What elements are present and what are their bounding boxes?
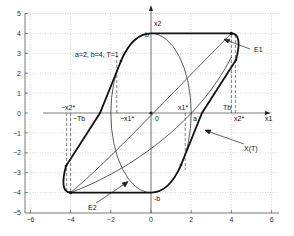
y-tick-labels: 5 4 3 2 1 0 −1 −2 −3 −4 −5 [13,10,21,216]
label-neg-b: -b [154,195,160,202]
x-tick: −2 [107,216,115,223]
x-tick: −4 [67,216,75,223]
y-tick: −5 [13,209,21,216]
label-xt: X(T) [244,145,258,153]
y-tick: −1 [13,130,21,137]
y-tick: 4 [17,30,21,37]
y-tick: −2 [13,149,21,156]
y-tick: 5 [17,10,21,17]
parameter-text: a=2, b=4, T=1 [75,51,119,58]
label-x2-star: x2* [234,115,244,122]
label-tb: Tb [223,104,231,111]
y-tick: −4 [13,189,21,196]
label-x1-star: x1* [178,104,188,111]
phase-plot: 5 4 3 2 1 0 −1 −2 −3 −4 −5 −6 −4 −2 0 2 … [0,0,294,236]
x-tick: 2 [189,216,193,223]
y-tick: 3 [17,50,21,57]
label-neg-x1-star: −x1* [120,115,134,122]
y-tick: 0 [17,110,21,117]
x-tick: 4 [229,216,233,223]
annotations: a=2, b=4, T=1 b -b E1 E2 X(T) −x2* −Tb −… [61,20,273,211]
y-tick: 2 [17,70,21,77]
label-e2: E2 [88,204,97,211]
y-tick: −3 [13,169,21,176]
x-tick: −6 [26,216,34,223]
y-tick: 1 [17,90,21,97]
label-neg-tb: −Tb [73,115,85,122]
label-e1: E1 [254,46,263,53]
label-x2-axis: x2 [154,20,162,27]
x-tick: 6 [270,216,274,223]
x-tick: 0 [149,216,153,223]
label-zero: 0 [155,115,159,122]
label-a: a [193,115,197,122]
label-x1-axis: x1 [265,115,273,122]
label-b: b [145,31,149,38]
x-tick-labels: −6 −4 −2 0 2 4 6 [26,216,273,223]
label-neg-x2-star: −x2* [61,104,75,111]
